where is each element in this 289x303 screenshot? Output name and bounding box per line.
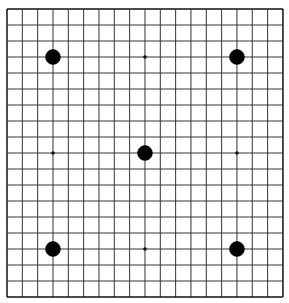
black-stone [229,50,244,65]
star-point [51,151,55,155]
black-stone [229,242,244,257]
star-point [143,55,147,59]
star-point [143,247,147,251]
black-stone [45,242,60,257]
go-board[interactable] [0,0,289,303]
star-point [235,151,239,155]
black-stone [45,50,60,65]
black-stone [137,146,152,161]
